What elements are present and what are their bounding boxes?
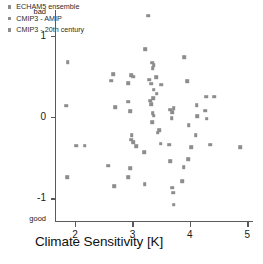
scatter-point bbox=[189, 145, 193, 149]
scatter-chart-figure: ECHAM5 ensemble CMIP3 - AMIP CMIP3 - 20t… bbox=[0, 0, 263, 264]
scatter-point bbox=[205, 117, 209, 121]
scatter-point bbox=[172, 106, 176, 110]
x-axis-spine bbox=[55, 221, 253, 222]
y-tick-label: 0 bbox=[40, 112, 46, 122]
y-axis-spine bbox=[55, 10, 56, 221]
x-tick-label: 5 bbox=[244, 230, 250, 240]
scatter-point bbox=[128, 110, 132, 114]
legend-marker-icon bbox=[8, 28, 11, 31]
x-tick bbox=[190, 222, 191, 227]
y-axis-top-label-holder: bad bbox=[51, 12, 56, 13]
scatter-point bbox=[112, 184, 116, 188]
x-tick bbox=[247, 222, 248, 227]
y-axis-bottom-label-holder: good bbox=[51, 219, 56, 220]
scatter-point bbox=[167, 143, 171, 147]
scatter-point bbox=[152, 114, 156, 118]
scatter-point bbox=[181, 179, 185, 183]
scatter-point bbox=[186, 158, 190, 162]
scatter-point bbox=[134, 145, 138, 149]
scatter-point bbox=[170, 110, 174, 114]
scatter-point bbox=[111, 72, 115, 76]
scatter-point bbox=[127, 175, 131, 179]
scatter-point bbox=[170, 116, 174, 120]
scatter-point bbox=[185, 80, 189, 84]
scatter-point bbox=[146, 14, 150, 18]
scatter-point bbox=[204, 95, 208, 99]
y-tick: 1 bbox=[51, 36, 56, 37]
plot-area: 10-1badgood 2345 bbox=[55, 10, 253, 221]
scatter-point bbox=[109, 79, 113, 83]
x-axis-title: Climate Sensitivity [K] bbox=[35, 234, 163, 249]
scatter-point bbox=[152, 88, 156, 92]
scatter-point bbox=[151, 67, 155, 71]
scatter-point bbox=[154, 76, 158, 80]
scatter-point bbox=[113, 106, 117, 110]
scatter-point bbox=[74, 144, 78, 148]
scatter-point bbox=[171, 191, 175, 195]
y-axis-bottom-label: good bbox=[29, 215, 46, 223]
scatter-point bbox=[150, 102, 154, 106]
scatter-point bbox=[150, 120, 154, 124]
scatter-point bbox=[239, 145, 243, 149]
y-axis-top-label: bad bbox=[33, 8, 46, 16]
x-tick-label: 4 bbox=[187, 230, 193, 240]
scatter-point bbox=[159, 83, 163, 87]
scatter-point bbox=[204, 109, 208, 113]
scatter-point bbox=[130, 133, 134, 137]
scatter-point bbox=[212, 95, 216, 99]
scatter-point bbox=[182, 55, 186, 59]
scatter-point bbox=[107, 164, 111, 168]
scatter-point bbox=[65, 104, 69, 108]
legend-marker-icon bbox=[8, 5, 11, 8]
scatter-point bbox=[155, 92, 159, 96]
scatter-point bbox=[128, 166, 132, 170]
scatter-point bbox=[142, 150, 146, 154]
scatter-point bbox=[65, 175, 69, 179]
scatter-point bbox=[172, 203, 176, 207]
scatter-point bbox=[127, 81, 131, 85]
scatter-point bbox=[195, 103, 199, 107]
y-tick-label: -1 bbox=[37, 193, 46, 203]
scatter-point bbox=[131, 140, 135, 144]
scatter-point bbox=[127, 100, 131, 104]
scatter-point bbox=[131, 75, 135, 79]
x-tick bbox=[75, 222, 76, 227]
scatter-point bbox=[156, 131, 160, 135]
scatter-point bbox=[208, 143, 212, 147]
scatter-point bbox=[83, 144, 87, 148]
scatter-point bbox=[150, 82, 154, 86]
scatter-point bbox=[187, 123, 191, 127]
scatter-point bbox=[143, 183, 147, 187]
scatter-point bbox=[143, 47, 147, 51]
scatter-point bbox=[169, 159, 173, 163]
y-tick-label: 1 bbox=[40, 31, 46, 41]
scatter-point bbox=[66, 60, 70, 64]
scatter-point bbox=[159, 142, 163, 146]
scatter-point bbox=[194, 133, 198, 137]
scatter-point bbox=[147, 78, 151, 82]
x-tick bbox=[132, 222, 133, 227]
scatter-point bbox=[196, 115, 200, 119]
legend-marker-icon bbox=[8, 17, 11, 20]
scatter-point bbox=[170, 186, 174, 190]
scatter-point bbox=[182, 166, 186, 170]
y-tick: -1 bbox=[51, 198, 56, 199]
y-tick: 0 bbox=[51, 117, 56, 118]
